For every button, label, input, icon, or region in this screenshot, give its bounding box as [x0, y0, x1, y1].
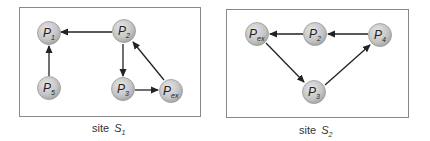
node-s1-p3: P3 — [112, 78, 135, 101]
site-s1-panel: P1 P2 P5 P3 Pex site S1 — [20, 8, 201, 137]
wait-for-graph-diagram: P1 P2 P5 P3 Pex site S1 Pex — [0, 0, 430, 141]
node-s2-pex: Pex — [246, 23, 269, 46]
node-s1-pex: Pex — [160, 80, 183, 103]
node-s1-p2: P2 — [113, 20, 136, 43]
node-s2-p2: P2 — [304, 23, 327, 46]
site-s2-panel: Pex P2 P4 P3 site S2 — [227, 10, 409, 139]
node-s1-p1: P1 — [38, 22, 61, 45]
node-s1-p5: P5 — [38, 77, 61, 100]
site-s1-caption: site S1 — [92, 122, 126, 136]
node-s2-p4: P4 — [369, 24, 392, 47]
site-s2-caption: site S2 — [299, 124, 333, 138]
node-s2-p3: P3 — [303, 81, 326, 104]
